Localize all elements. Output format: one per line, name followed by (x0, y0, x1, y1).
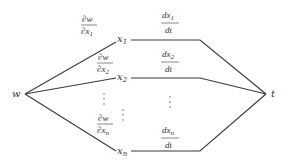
svg-text:dt: dt (165, 25, 173, 35)
chain-rule-tree-diagram: w t x1 x2 xn ∂w ∂x1 ∂w ∂x2 ∂w ∂xn dx1 dt… (0, 0, 289, 165)
edge-x2-t (131, 78, 266, 94)
edge-xn-t (131, 94, 266, 151)
svg-text:dx1: dx1 (162, 10, 174, 22)
right-edges (131, 40, 266, 151)
node-x2: x2 (117, 71, 128, 84)
deriv-label-2: dx2 dt (161, 49, 179, 74)
svg-text:dt: dt (165, 140, 173, 150)
partial-label-n: ∂w ∂xn (97, 113, 113, 137)
svg-text:∂w: ∂w (98, 52, 108, 62)
deriv-label-n: dxn dt (161, 125, 179, 150)
svg-text:dt: dt (165, 64, 173, 74)
node-x1: x1 (117, 33, 127, 46)
svg-text:dxn: dxn (162, 125, 175, 137)
svg-text:dx2: dx2 (162, 49, 175, 61)
ellipsis-left (103, 93, 104, 104)
svg-text:∂xn: ∂xn (97, 125, 109, 137)
svg-text:∂w: ∂w (98, 113, 108, 123)
edge-x1-t (131, 40, 266, 94)
partial-label-2: ∂w ∂x2 (97, 52, 113, 76)
node-xn: xn (117, 145, 128, 158)
ellipsis-right (169, 96, 170, 107)
partial-label-1: ∂w ∂x1 (81, 14, 97, 38)
node-t: t (271, 88, 276, 99)
svg-text:∂x2: ∂x2 (97, 64, 109, 76)
svg-text:∂w: ∂w (82, 14, 92, 24)
deriv-label-1: dx1 dt (161, 10, 179, 35)
node-w: w (12, 88, 21, 99)
ellipsis-mid (122, 109, 123, 120)
svg-text:∂x1: ∂x1 (81, 26, 93, 38)
